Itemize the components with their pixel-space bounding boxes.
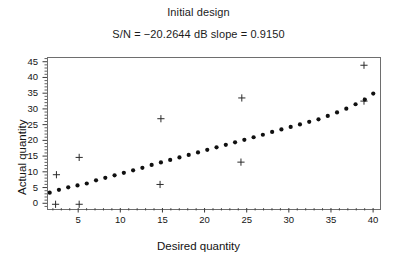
y-tick-label: 25 [22,119,38,130]
data-point-dot [270,130,274,134]
x-tick-label: 25 [238,214,256,225]
data-point-plus [237,159,244,166]
data-point-dot [279,127,283,131]
chart-subtitle: S/N = −20.2644 dB slope = 0.9150 [0,28,397,40]
data-point-dot [159,160,163,164]
data-point-dot [363,97,367,101]
x-tick-label: 30 [280,214,298,225]
data-point-dot [57,188,61,192]
data-point-dot [214,145,218,149]
data-point-dot [66,185,70,189]
data-point-dot [371,91,375,95]
y-tick-label: 35 [22,87,38,98]
data-point-dot [261,133,265,137]
x-tick-label: 5 [69,214,87,225]
y-tick-label: 10 [22,166,38,177]
data-point-dot [326,114,330,118]
data-point-plus [157,115,164,122]
data-point-plus [238,94,245,101]
data-point-dot [103,176,107,180]
x-tick-label: 20 [196,214,214,225]
plot-area [47,57,381,210]
data-point-dot [85,181,89,185]
data-point-dot [298,122,302,126]
data-point-dot [224,143,228,147]
x-tick-label: 15 [153,214,171,225]
plot-canvas [48,58,380,209]
data-point-dot [187,153,191,157]
data-point-dot [168,158,172,162]
data-point-dot [112,173,116,177]
data-point-dot [353,102,357,106]
y-tick-label: 40 [22,71,38,82]
chart-title: Initial design [0,6,397,18]
data-point-dot [344,107,348,111]
data-point-plus [76,201,83,208]
data-point-plus [360,62,367,69]
data-point-dot [75,183,79,187]
data-point-dot [48,191,52,195]
data-point-dot [196,150,200,154]
x-tick-label: 40 [364,214,382,225]
data-point-dot [316,117,320,121]
chart-figure: Initial design S/N = −20.2644 dB slope =… [0,0,397,275]
data-point-plus [156,181,163,188]
data-point-plus [76,154,83,161]
y-tick-label: 30 [22,103,38,114]
x-axis-label: Desired quantity [0,240,397,252]
y-tick-label: 15 [22,150,38,161]
data-point-dot [205,148,209,152]
data-point-dot [289,125,293,129]
x-tick-label: 35 [322,214,340,225]
x-tick-label: 10 [111,214,129,225]
data-point-dot [150,163,154,167]
data-point-plus [53,171,60,178]
y-tick-label: 20 [22,134,38,145]
data-point-dot [233,140,237,144]
data-point-dot [94,178,98,182]
data-point-dot [131,168,135,172]
y-tick-label: 0 [22,197,38,208]
data-point-dot [252,135,256,139]
data-point-plus [52,201,59,208]
data-point-dot [140,166,144,170]
data-point-dot [307,120,311,124]
data-point-dot [177,155,181,159]
data-point-dot [122,171,126,175]
y-tick-label: 5 [22,182,38,193]
data-point-dot [242,138,246,142]
y-tick-label: 45 [22,56,38,67]
data-point-dot [335,110,339,114]
